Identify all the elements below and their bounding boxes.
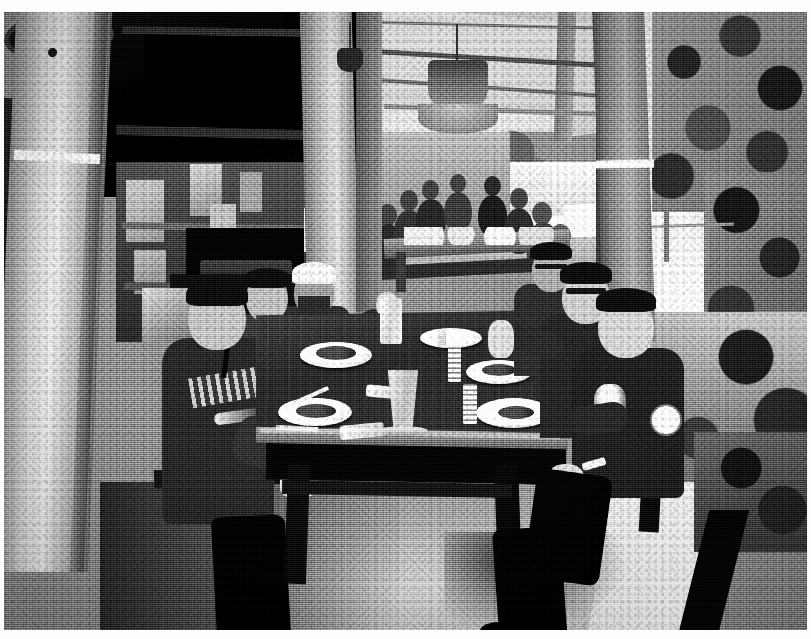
post-blemish [48, 48, 57, 57]
right-post-white-band [596, 159, 654, 168]
fence-post [704, 218, 709, 264]
food-on-plate [498, 406, 534, 419]
diner-body [444, 192, 472, 232]
dark-interior-core [144, 30, 319, 138]
scanned-photograph [4, 12, 807, 630]
diner-head [484, 176, 501, 196]
ceiling-lamp [337, 48, 363, 72]
diner-head [422, 180, 439, 200]
shop-poster [126, 180, 164, 242]
food-on-plate [316, 346, 356, 360]
fence-post [664, 212, 669, 262]
hair [560, 262, 612, 284]
hair [530, 242, 572, 260]
plate-far-centre [420, 328, 482, 348]
photo-page: Grainy black-and-white scanned photograp… [0, 0, 811, 639]
shoulder-patch [650, 404, 682, 436]
lamp-cord [456, 24, 458, 64]
water-pitcher-foot [378, 426, 428, 436]
food-on-plate [296, 404, 336, 418]
diner-head [400, 190, 418, 211]
leg [492, 526, 568, 630]
diner-head [510, 188, 528, 209]
hair [186, 280, 248, 306]
food-on-plate [482, 364, 516, 376]
condiment-bottle-right [463, 384, 477, 424]
hair [244, 268, 290, 288]
pendant-lamp-rim [418, 104, 498, 134]
drinking-glass-tall [380, 298, 402, 344]
condiment-bottle-centre [448, 346, 461, 382]
leg [211, 514, 291, 630]
thumbs-up-hand [488, 320, 514, 358]
head-wrap [292, 262, 336, 284]
diner-head [450, 174, 466, 193]
hair [596, 288, 656, 312]
shop-goods-box [240, 172, 262, 212]
background-table-leg [396, 252, 406, 292]
condiment-bottle-far [436, 330, 446, 346]
background-tableware [404, 227, 554, 245]
